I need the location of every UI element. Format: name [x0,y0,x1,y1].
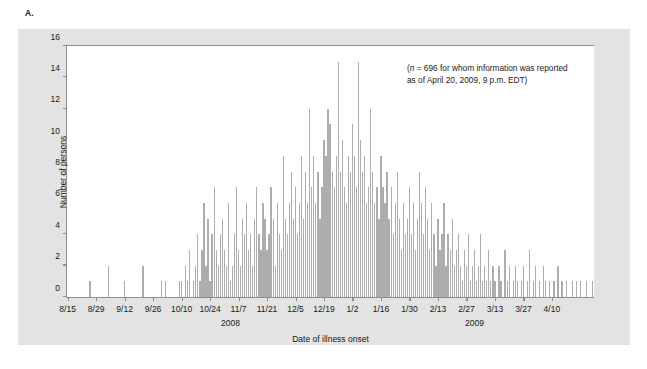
x-tick-mark [552,297,553,301]
bar [592,281,593,297]
x-tick-mark [352,297,353,301]
bar [509,266,510,297]
x-tick-label: 8/15 [59,304,76,314]
x-tick-mark [96,297,97,301]
bar [189,250,190,297]
x-tick-mark [324,297,325,301]
x-tick-label: 12/5 [287,304,304,314]
x-tick-mark [125,297,126,301]
bar [545,281,546,297]
x-tick-label: 11/7 [231,304,247,314]
x-tick-label: 10/10 [171,304,192,314]
x-tick-label: 1/16 [373,304,390,314]
annotation-line-2: as of April 20, 2009, 9 p.m. EDT) [407,74,622,86]
bar [539,281,540,297]
bar [523,266,524,297]
bar [553,281,554,297]
bar [161,281,162,297]
bar [517,281,518,297]
x-tick-mark [182,297,183,301]
bar [580,281,581,297]
panel-label: A. [25,8,34,18]
y-tick-label: 0 [55,283,60,293]
bar [561,281,562,297]
bar [549,281,550,297]
bar [557,266,558,297]
x-tick-mark [153,297,154,301]
x-tick-label: 2/13 [430,304,447,314]
x-tick-label: 8/29 [88,304,105,314]
bar [89,281,90,297]
bar [124,281,125,297]
x-tick-mark [267,297,268,301]
bar [181,281,182,297]
x-tick-mark [523,297,524,301]
x-tick-mark [438,297,439,301]
x-axis-year-label: 2009 [465,318,484,328]
y-tick-label: 16 [51,32,60,42]
x-tick-mark [239,297,240,301]
bar [535,266,536,297]
figure-panel: Number of persons 0246810121416 8/158/29… [18,29,630,345]
x-tick-label: 11/21 [257,304,278,314]
bar [142,266,143,297]
x-tick-label: 9/12 [116,304,133,314]
y-tick-label: 4 [55,220,60,230]
sample-size-annotation: (n = 696 for whom information was report… [407,62,622,86]
y-tick-label: 10 [51,126,60,136]
x-tick-mark [296,297,297,301]
y-tick-label: 2 [55,251,60,261]
bar [494,281,495,297]
y-tick-label: 12 [51,94,60,104]
bar [500,281,501,297]
x-tick-label: 9/26 [145,304,162,314]
x-tick-label: 1/30 [401,304,418,314]
x-axis-title: Date of illness onset [292,334,369,344]
bar [529,250,530,297]
x-tick-label: 10/24 [199,304,220,314]
x-tick-mark [68,297,69,301]
bar [576,281,577,297]
x-tick-label: 3/13 [487,304,504,314]
x-tick-mark [495,297,496,301]
bar [566,281,567,297]
x-tick-mark [210,297,211,301]
x-tick-label: 12/19 [313,304,334,314]
bar [586,281,587,297]
x-tick-label: 1/2 [347,304,359,314]
bar [572,281,573,297]
x-tick-label: 2/27 [458,304,475,314]
x-tick-label: 3/27 [515,304,532,314]
bar [165,281,166,297]
plot-area: Number of persons 0246810121416 8/158/29… [66,45,594,298]
x-tick-mark [409,297,410,301]
bar [108,266,109,297]
y-tick-label: 14 [51,63,60,73]
annotation-line-1: (n = 696 for whom information was report… [407,62,622,74]
x-tick-mark [466,297,467,301]
x-axis-year-label: 2008 [221,318,240,328]
x-tick-label: 4/10 [544,304,561,314]
x-tick-mark [381,297,382,301]
